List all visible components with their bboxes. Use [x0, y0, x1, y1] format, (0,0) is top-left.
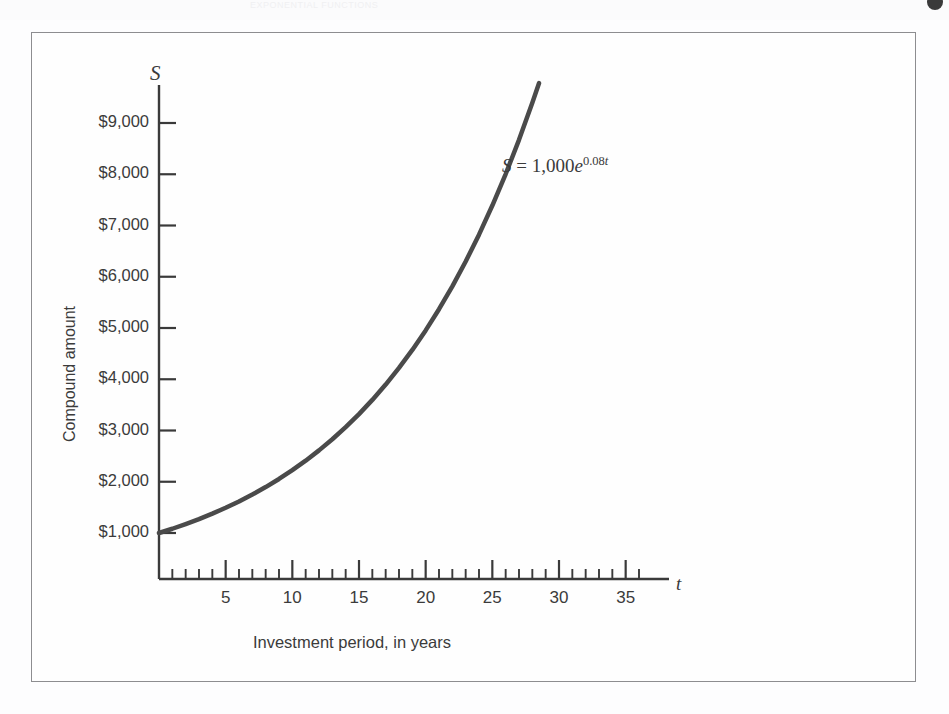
chart-plot-area — [32, 33, 917, 683]
y-tick-label-5000: $5,000 — [99, 317, 149, 336]
page-header-strip: EXPONENTIAL FUNCTIONS — [0, 0, 949, 20]
x-axis-symbol: t — [676, 573, 681, 595]
y-tick-label-6000: $6,000 — [99, 266, 149, 285]
y-tick-label-1000: $1,000 — [99, 522, 149, 541]
equation-exponent: 0.08t — [583, 154, 608, 168]
x-tick-label-25: 25 — [483, 588, 502, 608]
x-tick-label-35: 35 — [616, 588, 635, 608]
figure-frame: S t Compound amount Investment period, i… — [31, 32, 916, 682]
equation-coefficient: 1,000 — [532, 155, 575, 176]
equation-base: e — [574, 155, 582, 176]
equation-operator: = — [512, 155, 532, 176]
y-tick-label-7000: $7,000 — [99, 215, 149, 234]
exponential-growth-chart — [32, 33, 917, 683]
x-tick-label-20: 20 — [416, 588, 435, 608]
x-tick-label-10: 10 — [283, 588, 302, 608]
y-axis-title: Compound amount — [61, 274, 79, 474]
axis-ticks-group — [159, 123, 639, 579]
x-axis-title: Investment period, in years — [32, 633, 672, 652]
y-tick-label-8000: $8,000 — [99, 163, 149, 182]
x-tick-label-30: 30 — [550, 588, 569, 608]
y-tick-label-4000: $4,000 — [99, 368, 149, 387]
compound-amount-curve — [159, 83, 539, 533]
equation-exponent-var: t — [605, 154, 608, 168]
y-tick-label-9000: $9,000 — [99, 112, 149, 131]
x-tick-label-5: 5 — [221, 588, 230, 608]
y-tick-label-3000: $3,000 — [99, 420, 149, 439]
page-header-title: EXPONENTIAL FUNCTIONS — [250, 0, 510, 10]
y-axis-symbol: S — [150, 61, 161, 86]
y-tick-label-2000: $2,000 — [99, 471, 149, 490]
equation-exponent-rate: 0.08 — [583, 154, 605, 168]
curve-equation-annotation: S = 1,000e0.08t — [502, 155, 608, 177]
page-corner-dot-icon — [927, 0, 943, 10]
x-tick-label-15: 15 — [350, 588, 369, 608]
equation-lhs: S — [502, 155, 512, 176]
